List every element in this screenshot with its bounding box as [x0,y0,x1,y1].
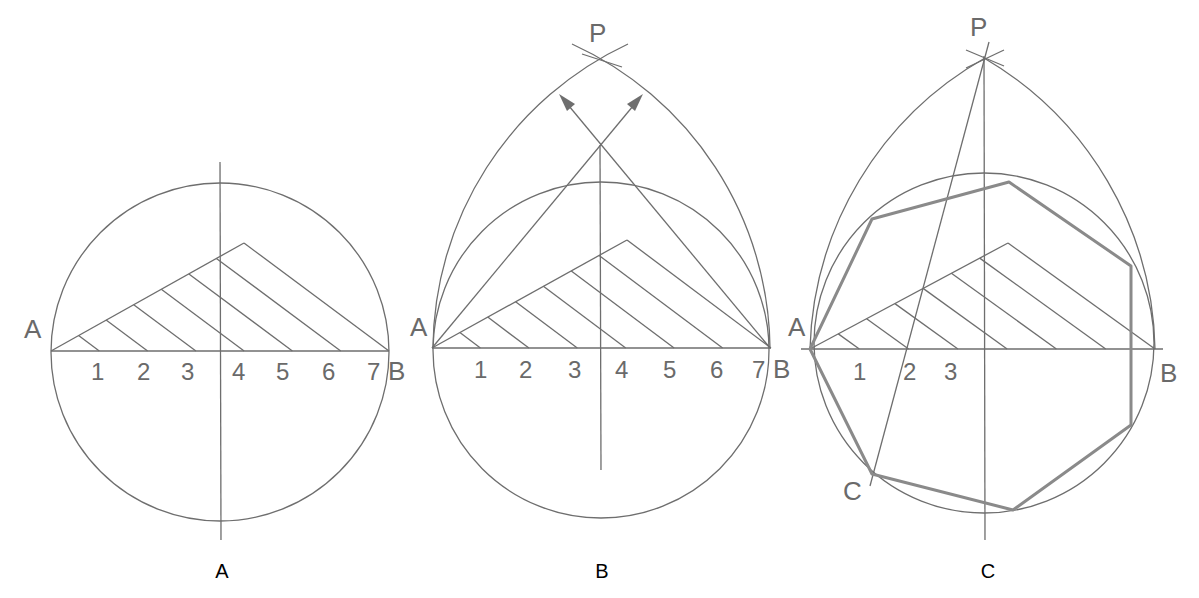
hatch-line [488,317,529,348]
hatch-line [923,288,1007,349]
hatch-line [980,258,1106,349]
hatch-line [838,334,859,349]
hatch-line [106,320,148,351]
hatch-line [895,304,958,349]
panel-a-inclined-line [51,243,244,351]
panel-c-hatch-lines [838,243,1155,349]
panel-a: A B 1 2 3 4 5 6 7 A [24,162,405,582]
division-label: 1 [853,358,866,385]
hatch-line [867,319,909,349]
panel-a-division-labels: 1 2 3 4 5 6 7 [91,358,380,385]
panel-c-caption: C [981,560,995,582]
hatch-line [516,302,578,348]
panel-b-label-a: A [410,312,428,342]
division-label: 2 [519,356,532,383]
panel-c: P A B C 1 2 3 C [788,12,1177,582]
division-label: 1 [474,356,487,383]
hatch-line [216,258,340,351]
hatch-line [627,240,771,348]
hatch-line [460,333,481,348]
division-label: 6 [710,356,723,383]
division-label: 3 [181,358,194,385]
panel-a-caption: A [215,560,229,582]
panel-b-arrowhead-left [559,94,575,111]
panel-b-arrowhead-right [627,94,643,111]
hatch-line [161,289,244,351]
division-label: 1 [91,358,104,385]
division-label: 2 [903,358,916,385]
panel-c-arc-from-a [984,58,1155,349]
heptagon-construction-figure: A B 1 2 3 4 5 6 7 A P A B 1 2 [0,0,1199,598]
panel-c-label-a: A [788,312,806,342]
hatch-line [189,274,293,351]
panel-b-arc-from-a [572,44,770,348]
panel-b-caption: B [595,560,608,582]
division-label: 7 [752,356,765,383]
hatch-line [244,243,389,351]
division-label: 7 [367,358,380,385]
panel-a-label-a: A [24,314,42,344]
hatch-line [951,273,1056,349]
panel-a-label-b: B [388,356,405,386]
hatch-line [571,271,674,348]
panel-b-label-p: P [589,18,606,48]
panel-c-label-b: B [1160,358,1177,388]
panel-c-division-labels: 1 2 3 [853,358,957,385]
panel-c-inclined-line [810,243,1008,349]
division-label: 4 [615,356,628,383]
panel-b-arrow-line-from-a [432,100,638,348]
panel-b-label-b: B [773,354,790,384]
division-label: 4 [232,358,245,385]
panel-a-hatch-lines [79,243,389,351]
panel-b-center-line [600,145,601,470]
hatch-line [1008,243,1155,349]
panel-c-label-c: C [843,476,862,506]
panel-b-arrow-line-from-b [564,100,770,348]
division-label: 5 [663,356,676,383]
hatch-line [543,286,625,348]
panel-c-construction-line-p-2-c [870,42,989,486]
panel-b-p-tick [582,54,622,67]
panel-c-label-p: P [970,12,987,42]
panel-b: P A B 1 2 3 4 5 6 7 B [410,18,790,582]
division-label: 5 [276,358,289,385]
division-label: 6 [322,358,335,385]
hatch-line [134,305,196,351]
division-label: 3 [944,358,957,385]
division-label: 2 [137,358,150,385]
panel-c-heptagon [810,182,1131,510]
panel-b-division-labels: 1 2 3 4 5 6 7 [474,356,765,383]
division-label: 3 [568,356,581,383]
panel-b-arc-from-b [433,44,628,348]
hatch-line [79,336,100,351]
